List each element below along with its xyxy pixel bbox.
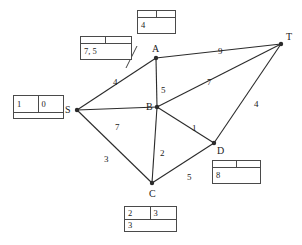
label-box-d-bottom-row: 8 xyxy=(213,168,260,184)
node-dot-a[interactable] xyxy=(154,56,158,60)
label-box-s-top-row: 10 xyxy=(14,96,63,113)
edge-b-c xyxy=(152,107,157,183)
label-box-sa-cell-top-left xyxy=(81,37,106,43)
label-box-s-cell-top-left: 1 xyxy=(14,96,39,112)
label-box-d-cell-top-right xyxy=(237,161,261,167)
edge-s-c xyxy=(77,110,152,183)
node-dot-t[interactable] xyxy=(279,42,283,46)
label-box-a-cell-top-right xyxy=(157,11,176,17)
label-box-a[interactable]: 4 xyxy=(137,10,176,34)
edge-weight-a-t: 9 xyxy=(218,47,223,56)
label-box-s-cell-top-right: 0 xyxy=(39,96,64,112)
edge-weight-d-t: 4 xyxy=(254,100,259,109)
node-label-t: T xyxy=(286,32,292,42)
label-box-d[interactable]: 8 xyxy=(212,160,261,184)
edge-b-d xyxy=(157,107,214,143)
edge-weight-s-b: 7 xyxy=(115,123,120,132)
node-label-s: S xyxy=(65,105,71,115)
edge-s-b xyxy=(77,107,157,110)
label-box-c-cell-top-right: 3 xyxy=(151,207,177,219)
node-dot-c[interactable] xyxy=(150,181,154,185)
node-dot-d[interactable] xyxy=(212,141,216,145)
edge-weight-b-t: 7 xyxy=(207,78,212,87)
label-box-d-cell-top-left xyxy=(213,161,237,167)
label-box-sa-cell-bottom: 7, 5 xyxy=(81,44,131,60)
node-label-d: D xyxy=(217,146,224,156)
label-box-c-bottom-row: 3 xyxy=(125,220,176,232)
label-box-sa-bottom-row: 7, 5 xyxy=(81,44,131,60)
label-box-a-cell-top-left xyxy=(138,11,157,17)
label-box-c-cell-bottom: 3 xyxy=(125,220,176,232)
node-dot-s[interactable] xyxy=(75,108,79,112)
label-box-sa[interactable]: 7, 5 xyxy=(80,36,132,60)
edge-d-t xyxy=(214,44,281,143)
node-label-a: A xyxy=(152,44,159,54)
label-box-d-cell-bottom: 8 xyxy=(213,168,260,184)
edge-a-b xyxy=(156,58,157,107)
node-label-b: B xyxy=(146,102,153,112)
edge-weight-c-d: 5 xyxy=(187,173,192,182)
edge-weight-s-c: 3 xyxy=(104,155,109,164)
edge-weight-b-d: 1 xyxy=(192,124,197,133)
node-label-c: C xyxy=(149,189,156,199)
label-box-c[interactable]: 233 xyxy=(124,206,177,232)
edge-weight-a-b: 5 xyxy=(161,86,166,95)
label-box-s-bottom-row xyxy=(14,113,63,119)
label-box-s[interactable]: 10 xyxy=(13,95,64,119)
label-box-s-cell-bottom xyxy=(14,113,63,119)
edge-weight-s-a: 4 xyxy=(113,78,118,87)
label-box-a-bottom-row: 4 xyxy=(138,18,175,34)
label-box-c-top-row: 23 xyxy=(125,207,176,220)
label-box-a-cell-bottom: 4 xyxy=(138,18,175,34)
edge-weight-b-c: 2 xyxy=(160,149,165,158)
diagram-canvas: 4735921754 SABCDT 47, 5108233 xyxy=(0,0,302,245)
node-dot-b[interactable] xyxy=(155,105,159,109)
label-box-sa-cell-top-right xyxy=(106,37,131,43)
label-box-c-cell-top-left: 2 xyxy=(125,207,151,219)
